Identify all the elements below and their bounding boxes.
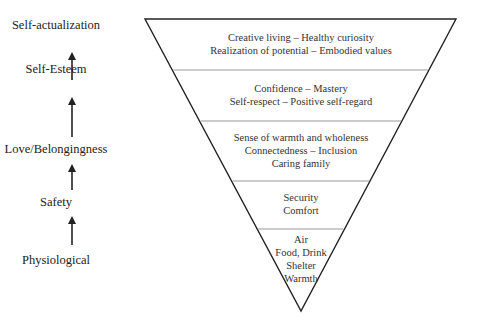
band-line: Realization of potential – Embodied valu…	[151, 44, 451, 57]
band-safety: Security Comfort	[151, 191, 451, 217]
band-self-esteem: Confidence – Mastery Self-respect – Posi…	[151, 82, 451, 108]
band-line: Food, Drink	[151, 246, 451, 259]
band-line: Caring family	[151, 157, 451, 170]
band-line: Security	[151, 191, 451, 204]
band-line: Warmth	[151, 272, 451, 285]
maslow-hierarchy-diagram: Self-actualization Self-Esteem Love/Belo…	[0, 0, 477, 326]
label-self-actualization: Self-actualization	[0, 18, 112, 33]
label-self-esteem: Self-Esteem	[0, 62, 112, 77]
band-love-belongingness: Sense of warmth and wholeness Connectedn…	[151, 131, 451, 170]
band-physiological: Air Food, Drink Shelter Warmth	[151, 233, 451, 285]
label-love-belongingness: Love/Belongingness	[0, 142, 112, 157]
label-physiological: Physiological	[0, 253, 112, 268]
band-line: Confidence – Mastery	[151, 82, 451, 95]
band-line: Creative living – Healthy curiosity	[151, 31, 451, 44]
band-line: Air	[151, 233, 451, 246]
band-line: Connectedness – Inclusion	[151, 144, 451, 157]
band-line: Sense of warmth and wholeness	[151, 131, 451, 144]
band-line: Shelter	[151, 259, 451, 272]
band-line: Self-respect – Positive self-regard	[151, 95, 451, 108]
label-safety: Safety	[0, 195, 112, 210]
band-self-actualization: Creative living – Healthy curiosity Real…	[151, 31, 451, 57]
band-line: Comfort	[151, 204, 451, 217]
